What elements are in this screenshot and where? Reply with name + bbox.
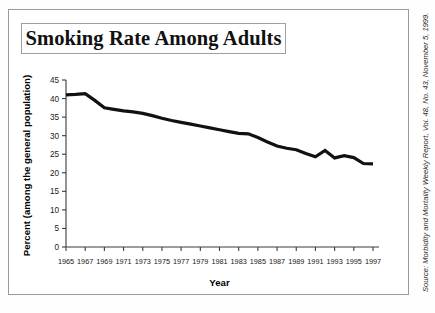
y-axis-title-main: Percent (among the general population) xyxy=(21,75,32,256)
x-axis-tick-label: 1987 xyxy=(269,257,285,266)
x-axis-tick-label: 1969 xyxy=(96,257,112,266)
x-axis-tick-label: 1967 xyxy=(77,257,93,266)
y-axis-tick-label: 0 xyxy=(54,243,59,252)
source-credit: Source: Morbidity and Mortality Weekly R… xyxy=(418,12,434,300)
x-axis-tick-label: 1977 xyxy=(173,257,189,266)
data-series-line xyxy=(66,94,373,164)
y-axis-tick-label: 30 xyxy=(50,132,60,141)
source-credit-text: Source: Morbidity and Mortality Weekly R… xyxy=(422,13,430,292)
x-axis-tick-label: 1973 xyxy=(135,257,151,266)
figure-container: Smoking Rate Among Adults 05101520253035… xyxy=(0,0,435,313)
x-axis-tick-label: 1971 xyxy=(115,257,131,266)
x-axis-tick-label: 1995 xyxy=(346,257,362,266)
x-axis-tick-label: 1983 xyxy=(231,257,247,266)
y-axis-tick-label: 15 xyxy=(50,187,60,196)
x-axis-tick-label: 1979 xyxy=(192,257,208,266)
x-axis-tick-label: 1985 xyxy=(250,257,266,266)
y-axis-tick-label: 45 xyxy=(50,76,60,85)
x-axis-tick-label: 1975 xyxy=(154,257,170,266)
y-axis-tick-label: 20 xyxy=(50,169,60,178)
x-axis-tick-label: 1993 xyxy=(327,257,343,266)
x-axis-tick-label: 1991 xyxy=(307,257,323,266)
chart-area: 0510152025303540451965196719691971197319… xyxy=(8,9,409,295)
line-chart: 0510152025303540451965196719691971197319… xyxy=(8,9,409,295)
y-axis-tick-label: 10 xyxy=(50,206,60,215)
y-axis-tick-label: 35 xyxy=(50,113,60,122)
y-axis-tick-label: 5 xyxy=(54,224,59,233)
x-axis-tick-label: 1981 xyxy=(211,257,227,266)
x-axis-tick-label: 1965 xyxy=(58,257,74,266)
x-axis-tick-label: 1989 xyxy=(288,257,304,266)
x-axis-title: Year xyxy=(209,277,230,288)
x-axis-tick-label: 1997 xyxy=(365,257,381,266)
y-axis-title: Percent (among the general population) xyxy=(21,75,32,256)
y-axis-tick-label: 40 xyxy=(50,95,60,104)
y-axis-tick-label: 25 xyxy=(50,150,60,159)
